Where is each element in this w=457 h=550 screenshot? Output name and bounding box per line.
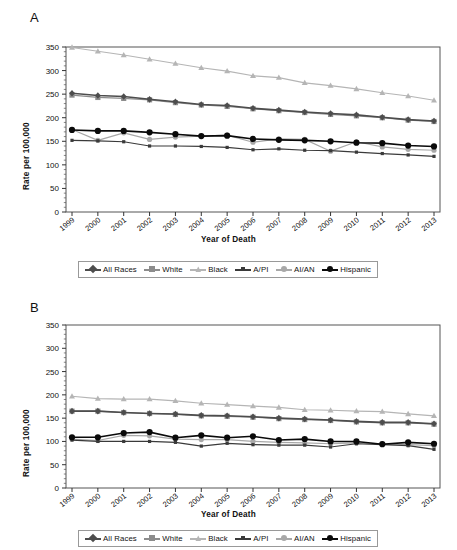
svg-text:2004: 2004 [187,215,206,233]
svg-text:2001: 2001 [109,491,128,509]
svg-text:2005: 2005 [213,215,232,233]
legend-item-white: White [144,265,182,274]
svg-text:100: 100 [46,437,60,446]
legend-marker-icon [144,534,160,543]
svg-text:2008: 2008 [290,491,309,509]
svg-text:2010: 2010 [342,215,361,233]
legend-item-hispanic: Hispanic [322,265,371,274]
svg-text:2010: 2010 [342,491,361,509]
svg-text:250: 250 [46,90,60,99]
legend-item-black: Black [190,265,228,274]
svg-text:1999: 1999 [58,215,77,233]
legend-marker-icon [85,534,101,543]
legend-item-a-pi: A/PI [235,534,268,543]
panel-a-x-axis-label: Year of Death [0,235,457,244]
svg-text:0: 0 [55,208,60,217]
svg-text:200: 200 [46,391,60,400]
svg-text:2009: 2009 [316,491,335,509]
legend-label: A/PI [253,265,268,274]
svg-text:2011: 2011 [368,491,386,508]
svg-text:2009: 2009 [316,215,335,233]
legend-marker-icon [276,534,292,543]
svg-text:2002: 2002 [135,215,154,233]
svg-text:50: 50 [50,461,59,470]
legend-label: AI/AN [294,265,315,274]
legend-marker-icon [235,265,251,274]
svg-text:2007: 2007 [264,215,283,233]
svg-text:2011: 2011 [368,215,386,232]
svg-text:2000: 2000 [83,215,102,233]
panel-b-x-axis-label: Year of Death [0,510,457,519]
legend-label: Black [208,534,228,543]
svg-text:2007: 2007 [264,491,283,509]
legend-item-ai-an: AI/AN [276,534,315,543]
legend-label: AI/AN [294,534,315,543]
legend-marker-icon [144,265,160,274]
svg-text:1999: 1999 [58,491,77,509]
legend-item-all-races: All Races [85,265,137,274]
svg-text:2005: 2005 [213,491,232,509]
panel-b: B Rate per 100,000 050100150200250300350… [0,292,457,550]
svg-text:300: 300 [46,67,60,76]
legend-item-a-pi: A/PI [235,265,268,274]
svg-text:2006: 2006 [239,215,258,233]
legend-item-ai-an: AI/AN [276,265,315,274]
svg-text:350: 350 [46,43,60,52]
svg-text:2003: 2003 [161,215,180,233]
legend-item-white: White [144,534,182,543]
svg-text:2013: 2013 [420,215,439,233]
svg-text:200: 200 [46,114,60,123]
svg-text:100: 100 [46,161,60,170]
panel-b-legend: All RacesWhiteBlackA/PIAI/ANHispanic [78,530,378,547]
panel-a: A Rate per 100,000 050100150200250300350… [0,0,457,292]
legend-marker-icon [190,534,206,543]
legend-marker-icon [190,265,206,274]
svg-text:2008: 2008 [290,215,309,233]
svg-text:2002: 2002 [135,491,154,509]
svg-text:150: 150 [46,137,60,146]
svg-text:2001: 2001 [109,215,128,233]
legend-marker-icon [85,265,101,274]
legend-label: A/PI [253,534,268,543]
legend-item-black: Black [190,534,228,543]
panel-a-plot-area: 0501001502002503003501999200020012002200… [0,0,457,292]
legend-label: Hispanic [340,265,371,274]
svg-text:2012: 2012 [394,491,413,509]
svg-text:2000: 2000 [83,491,102,509]
panel-a-svg: 0501001502002503003501999200020012002200… [0,0,457,292]
legend-label: White [162,534,182,543]
legend-marker-icon [322,534,338,543]
svg-text:2012: 2012 [394,215,413,233]
svg-text:2003: 2003 [161,491,180,509]
legend-marker-icon [276,265,292,274]
legend-label: White [162,265,182,274]
svg-text:300: 300 [46,344,60,353]
svg-text:250: 250 [46,368,60,377]
legend-marker-icon [322,265,338,274]
svg-text:2006: 2006 [239,491,258,509]
svg-text:50: 50 [50,184,59,193]
svg-text:0: 0 [55,484,60,493]
svg-text:2004: 2004 [187,491,206,509]
panel-a-legend: All RacesWhiteBlackA/PIAI/ANHispanic [78,261,378,278]
legend-marker-icon [235,534,251,543]
legend-label: Black [208,265,228,274]
legend-label: All Races [103,534,137,543]
legend-item-all-races: All Races [85,534,137,543]
svg-text:350: 350 [46,321,60,330]
svg-text:150: 150 [46,414,60,423]
legend-item-hispanic: Hispanic [322,534,371,543]
svg-text:2013: 2013 [420,491,439,509]
legend-label: Hispanic [340,534,371,543]
legend-label: All Races [103,265,137,274]
